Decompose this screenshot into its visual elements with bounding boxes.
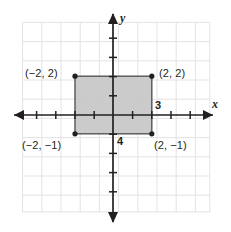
coordinate-plane-canvas [0,0,231,232]
y-axis-down-arrow-icon [108,212,118,223]
y-axis-label: y [120,12,125,24]
vertex-dot-top-right [149,74,154,79]
vertex-dot-bottom-right [149,131,154,136]
vertex-dot-top-left [72,74,77,79]
vertex-label-bottom-right: (2, −1) [154,140,187,151]
y-axis-up-arrow-icon [108,13,118,24]
x-axis-left-arrow-icon [14,110,24,120]
coordinate-plane-figure: (−2, 2) (2, 2) (−2, −1) (2, −1) 3 4 x y [0,0,231,232]
vertex-label-top-right: (2, 2) [159,68,185,79]
vertex-dot-bottom-left [72,131,77,136]
vertex-label-top-left: (−2, 2) [25,68,58,79]
dimension-label-width: 4 [117,136,123,147]
x-axis-label: x [212,98,218,110]
vertex-label-bottom-left: (−2, −1) [22,140,61,151]
dimension-label-height: 3 [155,100,161,111]
